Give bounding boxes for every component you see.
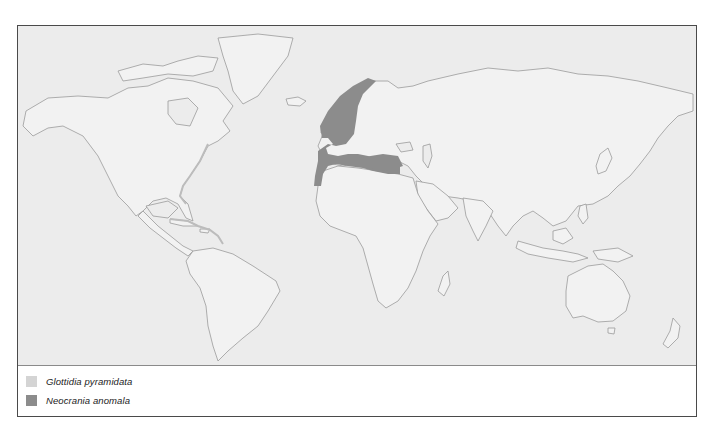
arctic-archipelago — [118, 56, 218, 81]
greenland — [218, 34, 293, 104]
legend-swatch-dark — [26, 395, 37, 406]
legend-label: Neocrania anomala — [46, 395, 130, 406]
landmasses — [23, 34, 693, 361]
legend-item-glottidia: Glottidia pyramidata — [26, 374, 132, 388]
new-zealand — [663, 318, 680, 348]
legend-label: Glottidia pyramidata — [46, 376, 132, 387]
new-guinea — [593, 248, 633, 262]
borneo — [553, 228, 573, 244]
map-legend: Glottidia pyramidata Neocrania anomala — [18, 366, 696, 416]
philippines — [578, 204, 588, 224]
map-figure: Glottidia pyramidata Neocrania anomala — [17, 25, 697, 417]
legend-item-neocrania: Neocrania anomala — [26, 393, 130, 407]
world-map-svg — [18, 26, 696, 365]
madagascar — [438, 271, 450, 296]
australia — [566, 264, 630, 322]
iceland — [286, 97, 306, 106]
indonesia — [516, 241, 588, 262]
tasmania — [608, 328, 615, 334]
world-map — [18, 26, 696, 366]
north-america — [23, 78, 233, 221]
south-america — [186, 248, 280, 361]
legend-swatch-light — [26, 376, 37, 387]
